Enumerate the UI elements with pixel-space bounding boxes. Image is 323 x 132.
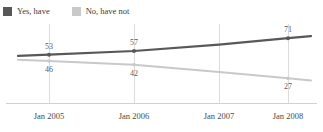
series-line <box>18 36 311 56</box>
data-point-marker <box>47 59 51 63</box>
data-value-label: 57 <box>130 38 138 47</box>
series-line <box>18 60 311 81</box>
legend-item-yes-have: Yes, have <box>3 7 50 16</box>
data-value-label: 42 <box>130 69 138 78</box>
legend-swatch-icon <box>3 7 12 16</box>
data-point-marker <box>286 36 290 40</box>
data-point-marker <box>47 53 51 57</box>
data-point-marker <box>286 77 290 81</box>
legend-swatch-icon <box>72 7 81 16</box>
x-axis-tick-label: Jan 2005 <box>34 111 64 121</box>
data-point-marker <box>132 63 136 67</box>
data-point-marker <box>132 49 136 53</box>
chart-legend: Yes, have No, have not <box>0 0 323 22</box>
legend-item-label: Yes, have <box>17 7 50 16</box>
data-value-label: 46 <box>45 65 53 74</box>
x-axis-tick-label: Jan 2006 <box>119 111 149 121</box>
data-value-label: 71 <box>284 25 292 34</box>
legend-item-label: No, have not <box>86 7 130 16</box>
data-value-label: 53 <box>45 42 53 51</box>
line-chart: Yes, have No, have not 535771464227Jan 2… <box>0 0 323 132</box>
data-value-label: 27 <box>284 82 292 91</box>
legend-item-no-have-not: No, have not <box>72 7 130 16</box>
x-axis-tick-label: Jan 2008 <box>273 111 303 121</box>
x-axis-tick-label: Jan 2007 <box>204 111 234 121</box>
